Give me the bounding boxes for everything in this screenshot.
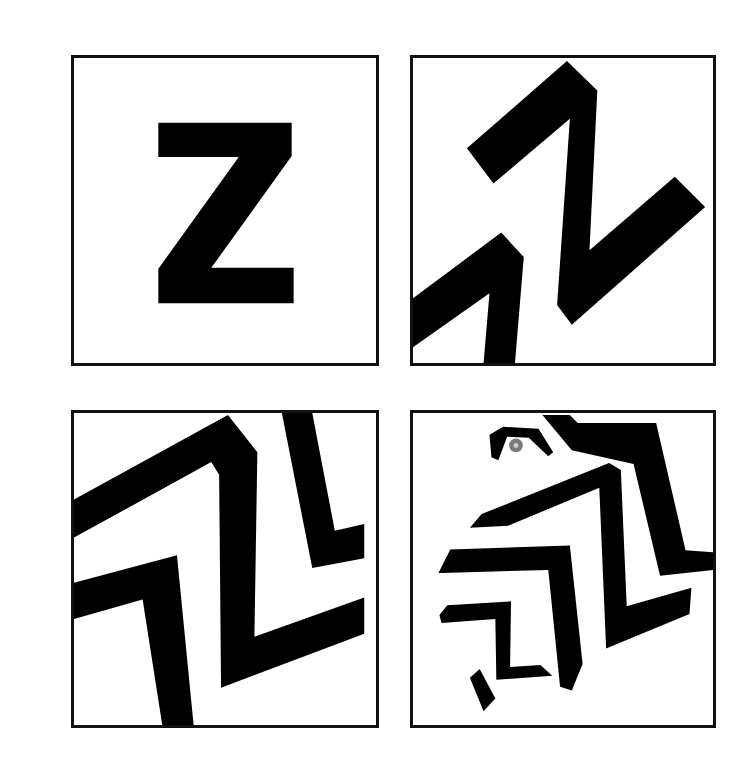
letter-z-shape (74, 58, 376, 363)
zigzag-bands-shape (74, 413, 376, 725)
panel-zigzag-bands: Panel 3 (71, 410, 379, 728)
panel-zigzag-z: Panel 2 (410, 55, 716, 366)
panel-letter-z: Panel 1 (71, 55, 379, 366)
panel-bird-form: Panel 4 (410, 410, 716, 728)
zigzag-z-shape (413, 58, 713, 363)
bird-form-shape (413, 413, 713, 725)
